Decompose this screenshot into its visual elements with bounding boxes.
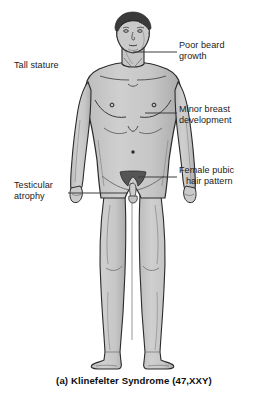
- label-female-pubic-hair-pattern-line1: Female pubic: [179, 165, 234, 176]
- label-female-pubic-hair-pattern-line2: hair pattern: [179, 176, 234, 187]
- label-testicular-atrophy: Testicular atrophy: [14, 180, 53, 203]
- scrotum: [129, 196, 138, 203]
- torso: [86, 62, 181, 198]
- label-minor-breast-development-line1: Minor breast: [179, 104, 232, 115]
- label-tall-stature: Tall stature: [14, 60, 59, 71]
- navel: [131, 150, 134, 153]
- left-arm: [71, 82, 91, 197]
- label-poor-beard-growth-line2: growth: [179, 51, 225, 62]
- label-tall-stature-line1: Tall stature: [14, 60, 59, 71]
- right-leg: [139, 196, 174, 369]
- left-leg: [91, 196, 126, 369]
- label-testicular-atrophy-line1: Testicular: [14, 180, 53, 191]
- label-minor-breast-development-line2: development: [179, 115, 232, 126]
- label-poor-beard-growth-line1: Poor beard: [179, 40, 225, 51]
- klinefelter-syndrome-figure: Tall stature Testicular atrophy Poor bea…: [0, 0, 268, 400]
- label-testicular-atrophy-line2: atrophy: [14, 191, 53, 202]
- label-poor-beard-growth: Poor beard growth: [179, 40, 225, 63]
- label-minor-breast-development: Minor breast development: [179, 104, 232, 127]
- figure-caption: (a) Klinefelter Syndrome (47,XXY): [0, 375, 268, 386]
- label-female-pubic-hair-pattern: Female pubic hair pattern: [179, 165, 234, 188]
- figure-body-group: [68, 12, 196, 369]
